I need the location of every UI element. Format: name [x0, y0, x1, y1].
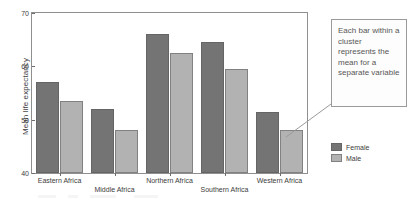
- legend-swatch-female: [331, 143, 342, 151]
- y-tick-label-40: 40: [21, 170, 29, 177]
- page-edge-artifact: [38, 195, 198, 198]
- bar-female: [146, 34, 169, 173]
- bar-male: [280, 130, 303, 173]
- x-tick-mark: [280, 173, 281, 176]
- x-axis-label-eastern-africa: Eastern Africa: [38, 177, 82, 184]
- y-tick-label-60: 60: [21, 63, 29, 70]
- bar-cluster: [201, 13, 248, 173]
- y-tick-label-50: 50: [21, 116, 29, 123]
- x-axis-label-southern-africa: Southern Africa: [201, 186, 249, 193]
- y-tick-label-70: 70: [21, 10, 29, 17]
- annotation-callout: Each bar within a cluster represents the…: [331, 19, 407, 107]
- legend-label: Female: [346, 144, 369, 151]
- bar-male: [225, 69, 248, 173]
- x-axis-label-northern-africa: Northern Africa: [146, 177, 193, 184]
- y-axis-title: Mean life expectancy: [21, 22, 30, 172]
- bar-cluster: [256, 13, 303, 173]
- bar-female: [91, 109, 114, 173]
- x-tick-mark: [170, 173, 171, 176]
- x-tick-mark: [115, 173, 116, 176]
- chart-legend: FemaleMale: [331, 143, 411, 165]
- x-axis-label-western-africa: Western Africa: [257, 177, 302, 184]
- legend-swatch-male: [331, 154, 342, 162]
- bar-male: [60, 101, 83, 173]
- bar-female: [201, 42, 224, 173]
- legend-item-male[interactable]: Male: [331, 154, 411, 162]
- bar-male: [115, 130, 138, 173]
- bar-female: [256, 112, 279, 173]
- bar-male: [170, 53, 193, 173]
- legend-item-female[interactable]: Female: [331, 143, 411, 151]
- legend-label: Male: [346, 155, 361, 162]
- bar-cluster: [91, 13, 138, 173]
- x-axis-label-middle-africa: Middle Africa: [94, 186, 134, 193]
- bar-chart-figure: Mean life expectancy 40506070 Eastern Af…: [0, 0, 419, 201]
- x-tick-mark: [225, 173, 226, 176]
- bar-series-container: [32, 13, 307, 173]
- plot-area: 40506070: [31, 12, 308, 174]
- bar-cluster: [36, 13, 83, 173]
- bar-cluster: [146, 13, 193, 173]
- x-tick-mark: [60, 173, 61, 176]
- bar-female: [36, 82, 59, 173]
- y-tick-mark: [32, 173, 35, 174]
